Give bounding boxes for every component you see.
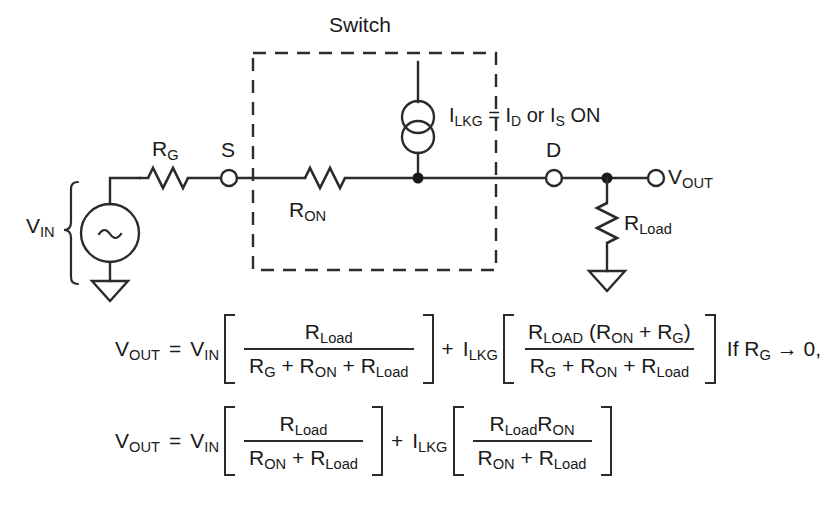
eq1-bracket-1: RLoad RG + RON + RLoad [224, 314, 434, 384]
eq2-f2n-t2m: R [537, 412, 552, 435]
eq1-frac1-numerator: RLoad [300, 319, 358, 348]
ron-main: R [289, 198, 304, 221]
eq2-lhs: VOUT [115, 429, 160, 453]
eq1-f2n-t1m: R [528, 320, 543, 343]
eq1-f1d-t1s: G [264, 364, 275, 380]
eq2-ilkg-sub: LKG [418, 439, 447, 455]
eq2-f1d-t2m: R [310, 446, 325, 469]
eq1-fraction-2: RLOAD (RON + RG) RG + RON + RLoad [514, 314, 705, 384]
rg-resistor-label: RG [152, 138, 179, 159]
eq2-bracket-1-left [224, 406, 235, 476]
eq1-bracket-2-left [503, 314, 514, 384]
eq1-f2d-t3s: Load [657, 364, 690, 380]
eq2-f2n-t1m: R [489, 412, 504, 435]
vin-brace [64, 182, 78, 284]
eq2-vin: VIN [190, 429, 219, 453]
eq2-lhs-main: V [115, 429, 129, 452]
eq1-f1d-t1m: R [249, 354, 264, 377]
vout-main: V [668, 165, 682, 188]
resistor-rload [597, 203, 617, 243]
equation-1: VOUT = VIN RLoad RG + RON + RLoad + ILKG… [112, 314, 821, 384]
eq2-f1d-t2s: Load [325, 456, 358, 472]
eq2-frac1-numerator: RLoad [275, 411, 333, 440]
lkg-id-sub: D [511, 113, 521, 129]
rg-sub: G [167, 147, 178, 163]
eq1-lhs: VOUT [115, 337, 160, 361]
eq1-f1d-t3m: R [361, 354, 376, 377]
eq1-bracket-2: RLOAD (RON + RG) RG + RON + RLoad [503, 314, 716, 384]
lkg-is-main: I [550, 104, 556, 126]
eq2-f2d-t2s: Load [554, 456, 587, 472]
eq1-frac2-denominator: RG + RON + RLoad [525, 348, 695, 379]
eq1-f2d-t2s: ON [595, 364, 617, 380]
leakage-source-circle-lower [402, 121, 434, 153]
eq1-f2n-t2s: ON [611, 330, 633, 346]
eq1-cond-arrow: → [777, 337, 798, 360]
rg-main: R [152, 137, 167, 160]
eq2-frac2-denominator: RON + RLoad [473, 440, 592, 471]
eq2-f2d-t2m: R [539, 446, 554, 469]
eq2-f2d-t1m: R [478, 446, 493, 469]
eq2-f2n-t2s: ON [553, 422, 575, 438]
eq2-fraction-2: RLoadRON RON + RLoad [464, 406, 601, 476]
eq2-f1d-t1m: R [249, 446, 264, 469]
switch-boundary-box [253, 53, 496, 270]
terminal-s-circle[interactable] [221, 170, 237, 186]
eq2-frac2-numerator: RLoadRON [484, 411, 579, 440]
eq2-f2d-t1s: ON [493, 456, 515, 472]
resistor-ron [305, 168, 345, 188]
eq1-condition: If RG → 0, [727, 337, 821, 361]
eq1-f2d-t3m: R [641, 354, 656, 377]
eq2-bracket-1: RLoad RON + RLoad [224, 406, 383, 476]
equation-2: VOUT = VIN RLoad RON + RLoad + ILKG RLoa… [112, 406, 614, 476]
eq1-f2n-t2m: R [596, 320, 611, 343]
eq1-plus: + [442, 337, 454, 361]
eq1-f2d-t1s: G [545, 364, 556, 380]
rload-resistor-label: RLoad [624, 212, 672, 233]
eq2-vin-sub: IN [204, 439, 219, 455]
eq1-bracket-2-right [705, 314, 716, 384]
eq2-f1d-t1s: ON [264, 456, 286, 472]
eq1-ilkg-main: I [463, 337, 469, 360]
eq1-vin-main: V [190, 337, 204, 360]
eq1-equals: = [169, 337, 181, 361]
junction-node-leakage [413, 173, 424, 184]
eq1-f1d-t2s: ON [315, 364, 337, 380]
leakage-source-circle-upper [402, 101, 434, 133]
eq1-frac1-denominator: RG + RON + RLoad [244, 348, 414, 379]
lkg-i: I [449, 104, 455, 126]
eq1-ilkg: ILKG [463, 337, 498, 361]
eq1-frac1-num-sub: Load [320, 330, 353, 346]
eq1-lhs-sub: OUT [129, 347, 160, 363]
eq1-cond-rsub: G [759, 347, 770, 363]
eq1-cond-if: If [727, 337, 739, 360]
eq1-cond-value: 0, [804, 337, 821, 360]
eq1-f2d-t2m: R [580, 354, 595, 377]
eq1-f2n-t1s: LOAD [543, 330, 583, 346]
wire-source-to-rg [110, 178, 140, 204]
lkg-on: ON [570, 104, 600, 126]
ron-sub: ON [304, 208, 326, 224]
eq2-fraction-1: RLoad RON + RLoad [235, 406, 372, 476]
rload-sub: Load [639, 221, 672, 237]
switch-box-label: Switch [329, 14, 391, 35]
eq1-frac1-num-main: R [305, 320, 320, 343]
eq1-cond-rmain: R [744, 337, 759, 360]
eq2-equals: = [169, 429, 181, 453]
eq2-vin-main: V [190, 429, 204, 452]
eq2-bracket-2-left [453, 406, 464, 476]
eq1-f1d-t2m: R [300, 354, 315, 377]
vin-main: V [26, 214, 40, 237]
eq2-frac1-num-sub: Load [295, 422, 328, 438]
eq2-plus: + [391, 429, 403, 453]
eq1-frac2-numerator: RLOAD (RON + RG) [523, 319, 696, 348]
terminal-vout-circle[interactable] [648, 170, 664, 186]
eq1-f2n-t3s: G [672, 330, 683, 346]
terminal-d-circle[interactable] [546, 170, 562, 186]
ron-resistor-label: RON [289, 199, 326, 220]
eq2-bracket-1-right [372, 406, 383, 476]
resistor-rg [148, 168, 188, 188]
rload-main: R [624, 211, 639, 234]
vout-terminal-label: VOUT [668, 166, 713, 187]
